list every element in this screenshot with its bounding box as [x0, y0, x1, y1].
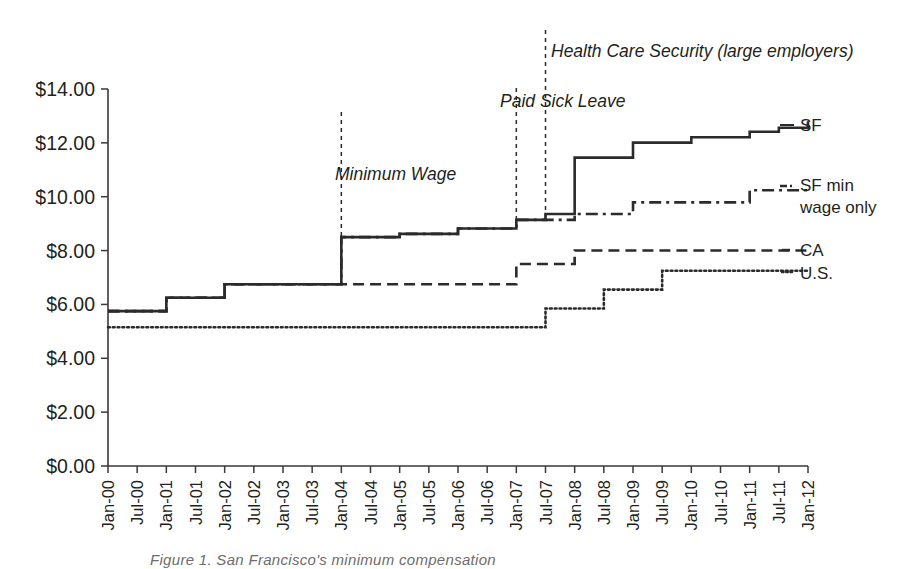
x-tick-label: Jul-09 — [653, 480, 671, 525]
x-tick-label: Jul-02 — [245, 480, 263, 525]
chart-axes — [101, 89, 808, 473]
x-tick-label: Jul-01 — [187, 480, 205, 525]
x-tick-label: Jan-03 — [274, 480, 292, 530]
x-tick-label: Jan-08 — [566, 480, 584, 530]
line-chart: $0.00$2.00$4.00$6.00$8.00$10.00$12.00$14… — [0, 0, 917, 569]
x-tick-label: Jan-12 — [799, 480, 817, 530]
x-tick-label: Jul-03 — [303, 480, 321, 525]
y-tick-label: $10.00 — [35, 186, 95, 208]
axis-lines — [108, 89, 808, 466]
series-label-sf-min-wage-only-line1: SF min — [800, 176, 854, 195]
series-line-ca — [108, 251, 808, 312]
figure-caption: Figure 1. San Francisco's minimum compen… — [150, 551, 496, 568]
y-tick-label: $14.00 — [35, 78, 95, 100]
x-axis-ticks — [108, 466, 808, 473]
x-tick-label: Jan-09 — [624, 480, 642, 530]
y-tick-label: $8.00 — [46, 240, 95, 262]
annotation-marker-lines — [341, 30, 545, 284]
x-tick-label: Jul-08 — [595, 480, 613, 525]
series-label-us: U.S. — [800, 264, 833, 283]
y-axis-tick-labels: $0.00$2.00$4.00$6.00$8.00$10.00$12.00$14… — [35, 78, 95, 477]
series-line-u-s — [108, 271, 808, 328]
chart-figure: $0.00$2.00$4.00$6.00$8.00$10.00$12.00$14… — [0, 0, 917, 569]
x-tick-label: Jul-06 — [478, 480, 496, 525]
x-axis-tick-labels: Jan-00Jul-00Jan-01Jul-01Jan-02Jul-02Jan-… — [99, 480, 817, 530]
x-tick-label: Jul-10 — [712, 480, 730, 525]
x-tick-label: Jul-07 — [537, 480, 555, 525]
chart-series-group — [108, 121, 808, 327]
y-axis-ticks — [101, 89, 108, 466]
x-tick-label: Jan-11 — [741, 480, 759, 529]
x-tick-label: Jan-04 — [332, 480, 350, 530]
series-label-sf: SF — [800, 116, 822, 135]
y-tick-label: $2.00 — [46, 401, 95, 423]
y-tick-label: $4.00 — [46, 347, 95, 369]
x-tick-label: Jul-11 — [770, 480, 788, 524]
annotation-health-care-security: Health Care Security (large employers) — [551, 41, 853, 61]
x-tick-label: Jan-01 — [157, 480, 175, 530]
annotation-minimum-wage: Minimum Wage — [335, 164, 457, 184]
x-tick-label: Jan-00 — [99, 480, 117, 530]
y-tick-label: $6.00 — [46, 293, 95, 315]
x-tick-label: Jan-02 — [216, 480, 234, 530]
x-tick-label: Jan-06 — [449, 480, 467, 530]
x-tick-label: Jan-07 — [507, 480, 525, 530]
x-tick-label: Jul-04 — [362, 480, 380, 525]
x-tick-label: Jul-05 — [420, 480, 438, 525]
y-tick-label: $0.00 — [46, 455, 95, 477]
x-tick-label: Jan-10 — [682, 480, 700, 530]
series-label-leaders — [780, 125, 794, 272]
y-tick-label: $12.00 — [35, 132, 95, 154]
series-label-ca: CA — [800, 241, 824, 260]
annotation-paid-sick-leave: Paid Sick Leave — [500, 91, 626, 111]
series-line-sf — [108, 121, 808, 311]
x-tick-label: Jan-05 — [391, 480, 409, 530]
series-label-sf-min-wage-only-line2: wage only — [799, 198, 877, 217]
x-tick-label: Jul-00 — [128, 480, 146, 525]
